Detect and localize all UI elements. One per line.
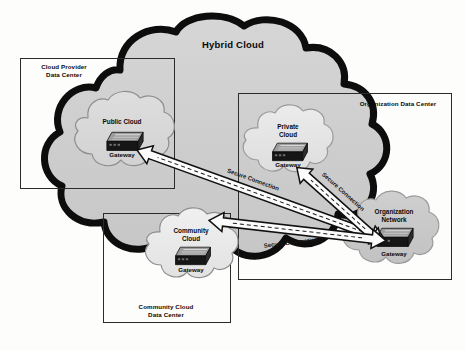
- community-cloud-data-center-label-line1: Community Cloud: [139, 303, 194, 310]
- private-cloud-label-line1: Private: [277, 123, 299, 130]
- organization-data-center-label-line1: Organization Data Center: [360, 100, 437, 107]
- diagram-canvas: Cloud Provider Data Center Organization …: [0, 0, 466, 350]
- community-cloud-gateway-device-icon: [176, 247, 211, 264]
- hybrid-cloud-title: Hybrid Cloud: [202, 39, 264, 50]
- organization-network-label-line1: Organization: [374, 208, 413, 216]
- organization-network-label-line2: Network: [381, 216, 407, 223]
- private-cloud-label-line2: Cloud: [279, 131, 297, 138]
- private-cloud-gateway-device-icon: [273, 143, 308, 160]
- community-cloud-label-line2: Cloud: [182, 235, 200, 242]
- private-cloud-gateway-label: Gateway: [275, 161, 301, 168]
- cloud-provider-data-center-label-line1: Cloud Provider: [41, 63, 87, 70]
- community-cloud-gateway-label: Gateway: [178, 266, 204, 273]
- cloud-provider-data-center-label-line2: Data Center: [46, 71, 82, 78]
- public-cloud-gateway-label: Gateway: [109, 151, 135, 158]
- public-cloud-gateway-device-icon: [107, 132, 143, 150]
- organization-network-gateway-label: Gateway: [381, 250, 407, 257]
- public-cloud-label-line1: Public Cloud: [102, 118, 141, 125]
- community-cloud-data-center-label-line2: Data Center: [148, 311, 184, 318]
- community-cloud-label-line1: Community: [173, 227, 209, 235]
